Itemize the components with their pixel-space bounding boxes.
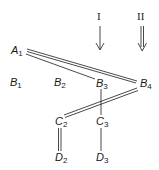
arrow-label-ii: II xyxy=(137,11,144,22)
node-d2: D2 xyxy=(55,152,67,165)
diagram-lines xyxy=(0,0,159,170)
edge-c2-d2 xyxy=(59,128,62,151)
node-a1: A1 xyxy=(11,45,23,58)
node-b1: B1 xyxy=(10,77,22,90)
edge-a1-b4 xyxy=(27,49,137,83)
arrow-i-icon xyxy=(96,26,104,50)
node-b2: B2 xyxy=(54,77,66,90)
node-c2: C2 xyxy=(55,116,67,129)
arrow-ii-icon xyxy=(138,26,147,51)
node-c3: C3 xyxy=(96,116,108,129)
node-b4: B4 xyxy=(140,78,152,91)
node-b3: B3 xyxy=(96,78,108,91)
tree-diagram: I II A1 B1 B2 B3 B4 C2 C3 D2 D3 xyxy=(0,0,159,170)
arrow-label-i: I xyxy=(97,11,101,22)
node-d3: D3 xyxy=(96,152,108,165)
